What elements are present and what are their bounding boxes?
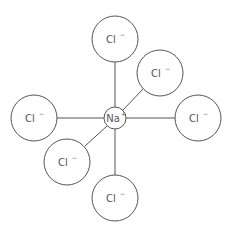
svg-text:Cl: Cl (25, 113, 35, 124)
sodium-ion-center: Na + (104, 107, 126, 129)
svg-text:Cl: Cl (189, 113, 199, 124)
chloride-ion-top: Cl − (92, 16, 138, 62)
chloride-ion-lower-left: Cl − (44, 139, 90, 185)
chloride-ion-left: Cl − (11, 95, 57, 141)
svg-text:−: − (120, 190, 125, 197)
bond-lower-left (85, 126, 107, 146)
octahedral-coordination-diagram: Cl − Cl − Cl − Cl − Cl − Cl − Na + (0, 0, 228, 229)
svg-text:−: − (203, 110, 208, 117)
svg-text:Cl: Cl (151, 68, 161, 79)
svg-text:+: + (121, 110, 126, 117)
svg-text:−: − (165, 65, 170, 72)
svg-text:−: − (72, 154, 77, 161)
chloride-ion-right: Cl − (175, 95, 221, 141)
svg-text:Cl: Cl (58, 157, 68, 168)
chloride-ion-upper-right: Cl − (137, 50, 183, 96)
svg-text:Na: Na (106, 113, 120, 124)
svg-text:Cl: Cl (106, 34, 116, 45)
svg-text:−: − (39, 110, 44, 117)
svg-text:Cl: Cl (106, 193, 116, 204)
bond-upper-right (123, 89, 143, 110)
svg-text:−: − (120, 31, 125, 38)
chloride-ion-bottom: Cl − (92, 175, 138, 221)
